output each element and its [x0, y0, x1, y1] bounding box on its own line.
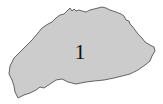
- map-svg: 1: [0, 0, 163, 104]
- region-1-label: 1: [75, 39, 86, 64]
- map-container: 1: [0, 0, 163, 104]
